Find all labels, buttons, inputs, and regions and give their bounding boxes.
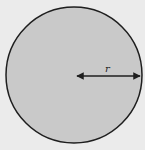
circle-shape — [6, 7, 142, 143]
circle-diagram: r — [0, 0, 145, 150]
